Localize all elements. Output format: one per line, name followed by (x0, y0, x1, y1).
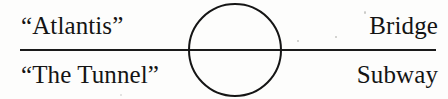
scan-speck (120, 94, 122, 96)
center-circle-shape (188, 3, 282, 97)
scan-speck (364, 11, 366, 14)
scan-speck (297, 40, 299, 42)
label-bottom-left: “The Tunnel” (21, 62, 159, 87)
scan-speck (335, 36, 337, 38)
label-top-left: “Atlantis” (21, 13, 123, 38)
label-bottom-right: Subway (357, 62, 438, 87)
label-top-right: Bridge (369, 13, 438, 38)
diagram-canvas: “Atlantis” “The Tunnel” Bridge Subway (0, 0, 448, 99)
